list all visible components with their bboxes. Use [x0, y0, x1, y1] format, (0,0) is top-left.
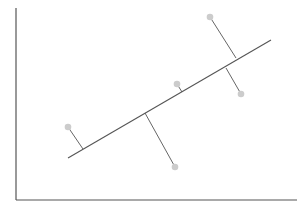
axes — [16, 8, 297, 200]
data-points — [65, 14, 245, 171]
residual-line — [145, 113, 175, 167]
residual-lines — [68, 17, 241, 167]
residual-line — [68, 127, 83, 149]
data-point — [65, 124, 72, 131]
residual-line — [210, 17, 236, 58]
data-point — [238, 91, 245, 98]
residual-line — [226, 68, 241, 94]
residual-diagram — [0, 0, 297, 209]
data-point — [207, 14, 214, 21]
data-point — [174, 81, 181, 88]
regression-line — [68, 40, 271, 158]
data-point — [172, 164, 179, 171]
